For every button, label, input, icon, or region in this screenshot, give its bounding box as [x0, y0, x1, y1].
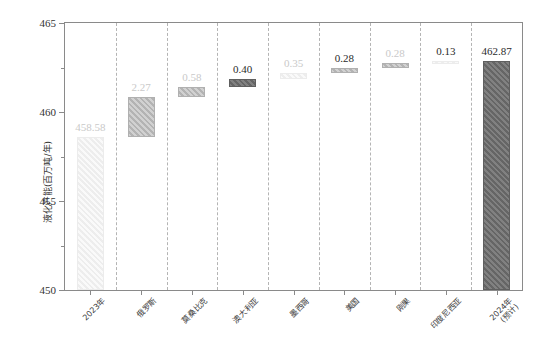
y-tick-label: 450 — [40, 284, 57, 296]
y-tick-minor — [61, 246, 65, 247]
bar — [229, 79, 256, 86]
x-category-label: 莫桑比克 — [180, 296, 209, 325]
y-tick-label: 455 — [40, 195, 57, 207]
bar-value-label: 458.58 — [75, 121, 105, 133]
x-category-label: 墨西哥 — [288, 296, 311, 319]
bar — [331, 68, 358, 73]
bar-value-label: 0.28 — [335, 52, 354, 64]
bar — [483, 61, 510, 290]
bar — [77, 137, 104, 290]
x-category-label-line: 澳大利亚 — [231, 296, 260, 325]
bar — [432, 61, 459, 64]
x-category-label: 俄罗斯 — [135, 296, 158, 319]
category-separator — [471, 23, 472, 290]
bar — [382, 63, 409, 68]
x-category-label-line: 墨西哥 — [288, 296, 311, 319]
x-category-label: 澳大利亚 — [231, 296, 260, 325]
category-separator — [370, 23, 371, 290]
bar — [178, 87, 205, 97]
x-category-label-line: 印度尼西亚 — [429, 296, 464, 331]
category-separator — [268, 23, 269, 290]
bar-value-label: 462.87 — [481, 45, 511, 57]
x-category-label: 印度尼西亚 — [429, 296, 464, 331]
y-tick — [59, 290, 65, 291]
bar — [128, 97, 155, 137]
x-tick — [141, 290, 142, 295]
bar-value-label: 2.27 — [132, 81, 151, 93]
y-tick-minor — [61, 157, 65, 158]
x-tick — [497, 290, 498, 295]
plot-area: 450455460465 458.582.270.580.400.350.280… — [64, 22, 523, 291]
bar — [280, 73, 307, 79]
y-tick-label: 460 — [40, 106, 57, 118]
x-tick — [344, 290, 345, 295]
y-axis-title: 液化产能(百万吨/年) — [41, 140, 54, 222]
x-category-label: 2023年 — [81, 296, 108, 323]
x-category-label-line: 美国 — [344, 296, 362, 314]
x-category-label-line: 俄罗斯 — [135, 296, 158, 319]
x-category-label-line: 莫桑比克 — [180, 296, 209, 325]
category-separator — [116, 23, 117, 290]
bar-value-label: 0.13 — [436, 45, 455, 57]
y-tick-label: 465 — [40, 17, 57, 29]
x-category-label-line: 刚果 — [395, 296, 413, 314]
x-tick — [395, 290, 396, 295]
bar-value-label: 0.40 — [233, 63, 252, 75]
chart-canvas: 液化产能(百万吨/年) 450455460465 458.582.270.580… — [0, 0, 538, 363]
y-tick-minor — [61, 68, 65, 69]
x-category-label: 2024年(预计) — [488, 296, 521, 329]
x-tick — [446, 290, 447, 295]
bar-value-label: 0.28 — [385, 47, 404, 59]
x-category-label-line: 2023年 — [81, 296, 108, 323]
x-tick — [192, 290, 193, 295]
y-tick — [59, 23, 65, 24]
category-separator — [420, 23, 421, 290]
category-separator — [217, 23, 218, 290]
y-tick — [59, 201, 65, 202]
x-tick — [90, 290, 91, 295]
x-category-label: 刚果 — [395, 296, 413, 314]
bar-value-label: 0.35 — [284, 57, 303, 69]
x-category-label: 美国 — [344, 296, 362, 314]
bar-value-label: 0.58 — [182, 71, 201, 83]
x-tick — [294, 290, 295, 295]
y-tick — [59, 112, 65, 113]
category-separator — [319, 23, 320, 290]
x-tick — [243, 290, 244, 295]
category-separator — [167, 23, 168, 290]
